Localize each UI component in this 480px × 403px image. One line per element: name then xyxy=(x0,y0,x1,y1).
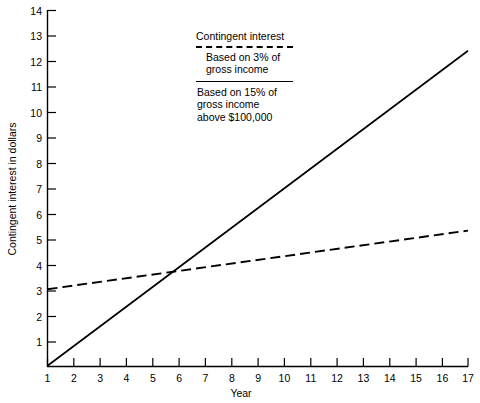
y-tick-label: 9 xyxy=(36,132,42,144)
y-axis-ticks xyxy=(48,11,57,343)
series-line-dashed xyxy=(48,231,469,290)
x-tick-label: 8 xyxy=(229,372,235,384)
y-tick-label: 2 xyxy=(36,311,42,323)
y-tick-label: 11 xyxy=(31,81,42,93)
x-tick-label: 2 xyxy=(71,372,77,384)
y-tick-label: 3 xyxy=(36,285,42,297)
x-tick-label: 14 xyxy=(384,372,396,384)
x-tick-label: 16 xyxy=(437,372,449,384)
legend-solid-entry-line2: gross income xyxy=(196,98,304,111)
x-axis-ticks xyxy=(48,358,469,367)
x-tick-label: 17 xyxy=(462,372,474,384)
y-tick-labels: 14 13 12 11 10 9 8 7 6 5 4 3 2 1 xyxy=(30,5,42,349)
x-axis-title: Year xyxy=(230,387,252,399)
legend-solid-entry-line1: Based on 15% of xyxy=(196,86,304,99)
y-axis-title: Contingent interest in dollars xyxy=(6,122,18,255)
x-tick-label: 10 xyxy=(279,372,291,384)
x-tick-label: 5 xyxy=(150,372,156,384)
x-tick-label: 9 xyxy=(255,372,261,384)
x-tick-label: 11 xyxy=(305,372,316,384)
y-tick-label: 13 xyxy=(30,30,42,42)
x-tick-label: 6 xyxy=(176,372,182,384)
y-tick-label: 7 xyxy=(36,183,42,195)
x-tick-label: 13 xyxy=(358,372,370,384)
chart-container: 14 13 12 11 10 9 8 7 6 5 4 3 2 1 1 2 3 4… xyxy=(0,0,480,403)
y-tick-label: 4 xyxy=(36,260,42,272)
x-tick-labels: 1 2 3 4 5 6 7 8 9 10 11 12 13 14 15 16 1… xyxy=(45,372,474,384)
y-tick-label: 5 xyxy=(36,234,42,246)
y-tick-label: 8 xyxy=(36,158,42,170)
x-tick-label: 15 xyxy=(410,372,422,384)
y-tick-label: 1 xyxy=(36,336,42,348)
legend-title: Contingent interest xyxy=(196,30,304,43)
x-tick-label: 7 xyxy=(202,372,208,384)
y-tick-label: 10 xyxy=(30,107,42,119)
x-tick-label: 1 xyxy=(45,372,51,384)
legend-dashed-entry-line2: gross income xyxy=(196,63,304,76)
y-tick-label: 14 xyxy=(30,5,42,17)
x-tick-label: 12 xyxy=(331,372,343,384)
x-tick-label: 4 xyxy=(123,372,129,384)
legend-solid-entry-line3: above $100,000 xyxy=(196,111,304,124)
y-tick-label: 12 xyxy=(30,56,42,68)
chart-legend: Contingent interest Based on 3% of gross… xyxy=(196,30,304,124)
y-tick-label: 6 xyxy=(36,209,42,221)
x-tick-label: 3 xyxy=(97,372,103,384)
legend-dashed-swatch xyxy=(196,46,293,48)
legend-dashed-entry-line1: Based on 3% of xyxy=(196,51,304,64)
legend-solid-swatch xyxy=(196,81,293,82)
